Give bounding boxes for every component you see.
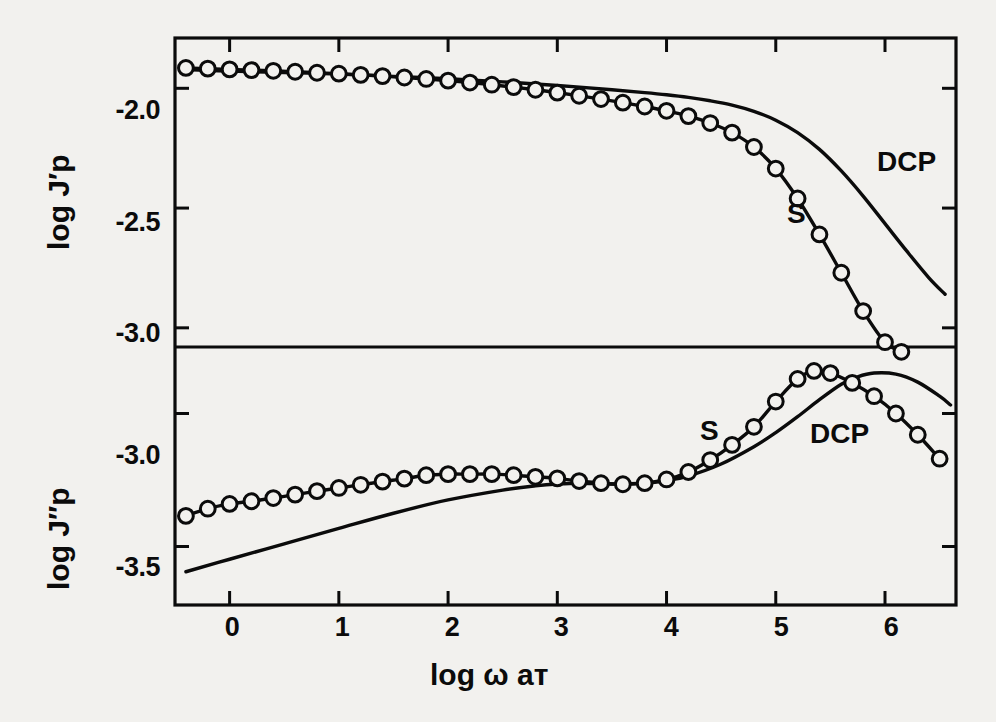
marker-top-s-27 [768,161,783,176]
marker-bottom-s-6 [310,484,325,499]
marker-bottom-s-13 [463,467,478,482]
marker-bottom-s-25 [725,437,740,452]
marker-bottom-s-18 [572,474,587,489]
marker-top-s-0 [179,61,194,76]
marker-bottom-s-27 [768,394,783,409]
marker-top-s-6 [310,65,325,80]
y-axis-title-top-text: log J′p [42,154,75,250]
marker-bottom-s-29 [807,364,822,379]
marker-top-s-11 [419,72,434,87]
marker-top-s-29 [812,227,827,242]
x-axis-title-text: log ω aᴛ [430,658,548,691]
marker-bottom-s-16 [528,469,543,484]
marker-bottom-s-22 [659,472,674,487]
marker-bottom-s-3 [244,494,259,509]
marker-bottom-s-17 [550,471,565,486]
plot-frame [175,38,956,605]
marker-top-s-18 [572,88,587,103]
marker-bottom-s-20 [615,477,630,492]
marker-bottom-s-9 [375,474,390,489]
curve-top-dcp [186,70,945,295]
ytick-label-bottom-1: -3.0 [60,440,160,471]
marker-top-s-19 [594,92,609,107]
xtick-label-5: 5 [756,612,806,643]
marker-top-s-22 [659,103,674,118]
ytick-label-top-1: -2.0 [60,95,160,126]
curve-label-top-dcp: DCP [877,146,936,178]
marker-bottom-s-14 [484,467,499,482]
xtick-label-0: 0 [207,612,257,643]
marker-bottom-s-5 [288,487,303,502]
marker-top-s-31 [856,304,871,319]
marker-top-s-14 [484,77,499,92]
marker-top-s-12 [441,73,456,88]
marker-top-s-15 [506,80,521,95]
marker-bottom-s-33 [889,406,904,421]
xtick-label-6: 6 [866,612,916,643]
marker-bottom-s-2 [222,497,237,512]
marker-bottom-s-32 [867,389,882,404]
y-axis-title-top: log J′p [42,154,76,250]
marker-bottom-s-19 [594,476,609,491]
marker-top-s-2 [222,62,237,77]
marker-bottom-s-35 [932,451,947,466]
data-point-markers [179,61,947,524]
marker-bottom-s-7 [331,481,346,496]
figure-root: -2.0 -2.5 -3.0 -3.0 -3.5 0 1 2 3 4 5 6 l… [0,0,996,722]
marker-top-s-17 [550,85,565,100]
xtick-label-1: 1 [317,612,367,643]
marker-bottom-s-8 [353,477,368,492]
xtick-label-3: 3 [536,612,586,643]
marker-top-s-24 [703,116,718,131]
marker-bottom-s-31 [845,376,860,391]
marker-bottom-s-0 [179,509,194,524]
marker-top-s-20 [615,95,630,110]
marker-bottom-s-21 [637,476,652,491]
curve-label-top-s: S [787,198,806,230]
marker-top-s-8 [353,67,368,82]
marker-bottom-s-26 [747,419,762,434]
marker-top-s-21 [637,99,652,114]
marker-top-s-10 [397,70,412,85]
plot-border [175,38,956,605]
xtick-label-2: 2 [427,612,477,643]
marker-bottom-s-24 [703,453,718,468]
marker-top-s-32 [878,335,893,350]
marker-bottom-s-12 [441,467,456,482]
marker-bottom-s-1 [200,501,215,516]
marker-bottom-s-10 [397,471,412,486]
xtick-label-4: 4 [646,612,696,643]
marker-bottom-s-30 [823,366,838,381]
ytick-label-top-3: -3.0 [60,318,160,349]
marker-top-s-23 [681,109,696,124]
curve-label-bottom-s: S [700,415,719,447]
marker-top-s-4 [266,63,281,78]
curve-bottom-dcp [186,373,951,572]
marker-top-s-1 [200,61,215,76]
marker-top-s-30 [834,265,849,280]
marker-bottom-s-28 [790,372,805,387]
marker-top-s-13 [463,75,478,90]
marker-top-s-5 [288,64,303,79]
marker-bottom-s-23 [681,465,696,480]
marker-bottom-s-34 [910,427,925,442]
curve-label-bottom-dcp: DCP [810,418,869,450]
marker-bottom-s-11 [419,468,434,483]
marker-top-s-9 [375,69,390,84]
marker-top-s-7 [331,66,346,81]
marker-top-s-26 [747,140,762,155]
marker-top-s-3 [244,63,259,78]
marker-bottom-s-4 [266,491,281,506]
y-axis-title-bottom: log J″p [42,487,76,590]
marker-top-s-25 [725,125,740,140]
marker-bottom-s-15 [506,468,521,483]
axis-ticks [175,38,956,605]
y-axis-title-bottom-text: log J″p [42,487,75,590]
marker-top-s-16 [528,82,543,97]
x-axis-title: log ω aᴛ [430,658,548,692]
marker-top-s-33 [894,344,909,359]
